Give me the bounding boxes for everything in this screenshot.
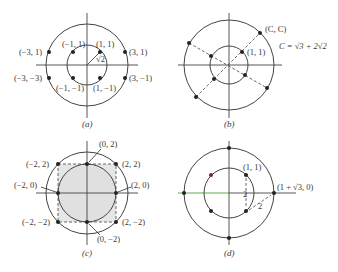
point (114, 162, 118, 166)
panel-a: (−1, 1) (1, 1) (−3, 1) (3, 1) (−3, −3) (… (14, 13, 152, 129)
point (244, 173, 248, 177)
point-label: (−1, 1) (62, 39, 85, 49)
point-label: (C, C) (265, 24, 286, 34)
point-label: (2, 0) (131, 180, 150, 190)
arrow-line (89, 149, 101, 162)
point-label: (0, −2) (97, 234, 120, 244)
point (47, 76, 51, 80)
point-label: (1, 1) (96, 39, 115, 49)
point (123, 76, 127, 80)
point (71, 50, 75, 54)
point (98, 76, 102, 80)
point-label: (1 + √3, 0) (277, 182, 314, 192)
point-label: (−2, 2) (26, 159, 49, 169)
point-label: (2, 2) (122, 159, 141, 169)
point-label: (−1, −1) (56, 83, 84, 93)
point-label: (1, 1) (243, 162, 262, 172)
arrow-line (41, 187, 56, 192)
point (209, 173, 213, 177)
signal-constellation-figure: (−1, 1) (1, 1) (−3, 1) (3, 1) (−3, −3) (… (0, 0, 338, 272)
point (240, 50, 244, 54)
panel-caption: (d) (224, 248, 235, 258)
point (47, 50, 51, 54)
point (265, 86, 269, 90)
point-label: (3, −1) (129, 73, 152, 83)
point-label: (1, −1) (93, 83, 116, 93)
panel-d: 2 2 (1, 1) (1 + √3, 0) (d) (178, 141, 314, 258)
distance-label: 2 (243, 189, 247, 199)
point-label: (−3, 1) (19, 47, 42, 57)
point (85, 220, 89, 224)
point (272, 191, 276, 195)
point (243, 73, 247, 77)
point (209, 209, 213, 213)
radius-label: √2 (96, 54, 105, 64)
point (258, 31, 262, 35)
point (182, 191, 186, 195)
arrow-line (118, 187, 131, 192)
point (187, 41, 191, 45)
point (56, 220, 60, 224)
point (209, 54, 213, 58)
point-label: (−2, −2) (22, 217, 50, 227)
panel-caption: (a) (82, 119, 93, 129)
point (71, 76, 75, 80)
point-label: (−3, −3) (14, 73, 42, 83)
panel-caption: (b) (224, 119, 235, 129)
point (123, 50, 127, 54)
distance-label: 2 (258, 201, 262, 211)
formula-label: C = √3 + 2√2 (279, 41, 327, 51)
panel-b: (C, C) (1, 1) C = √3 + 2√2 (b) (178, 13, 327, 129)
point (227, 236, 231, 240)
panel-c: (0, 2) (−2, 2) (2, 2) (−2, 0) (2, 0) (−2… (14, 139, 150, 258)
point (114, 220, 118, 224)
point (85, 162, 89, 166)
panel-caption: (c) (82, 248, 92, 258)
point (114, 191, 118, 195)
point (244, 209, 248, 213)
point (227, 146, 231, 150)
point-label: (2, −2) (122, 217, 145, 227)
point (194, 95, 198, 99)
point (56, 191, 60, 195)
point-label: (3, 1) (129, 47, 148, 57)
point-label: (0, 2) (99, 139, 118, 149)
point (212, 77, 216, 81)
point (56, 162, 60, 166)
point-label: (−2, 0) (14, 180, 37, 190)
point-label: (1, 1) (247, 47, 266, 57)
